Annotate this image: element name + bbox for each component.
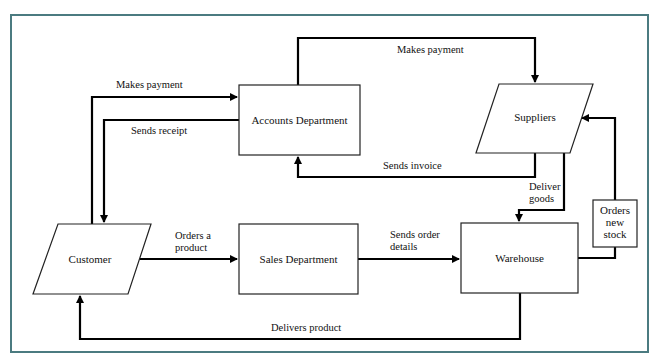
node-label-line: Orders (600, 204, 630, 216)
node-orders-new-stock: Orders new stock (593, 200, 637, 247)
edge-label-sends-order-details-line2: details (390, 241, 417, 252)
node-sales-department: Sales Department (239, 224, 358, 294)
data-flow-diagram: Accounts Department Suppliers Customer S… (0, 0, 659, 360)
edge-label-sends-order-details-line1: Sends order (390, 229, 440, 240)
edge-label-deliver-goods-line2: goods (529, 193, 554, 204)
node-label: Customer (69, 253, 112, 265)
edge-label-deliver-goods-line1: Deliver (529, 181, 561, 192)
edge-label-orders-product-line1: Orders a (175, 230, 211, 241)
edge-label-makes-payment-customer: Makes payment (116, 79, 183, 90)
node-label: Accounts Department (251, 114, 347, 126)
node-warehouse: Warehouse (461, 223, 578, 293)
node-accounts-department: Accounts Department (239, 85, 360, 155)
node-label-line: new (606, 216, 624, 228)
node-label: Suppliers (514, 111, 556, 123)
node-label-line: stock (603, 228, 627, 240)
node-label: Sales Department (260, 253, 338, 265)
edge-label-makes-payment-suppliers: Makes payment (397, 44, 464, 55)
edge-label-sends-invoice: Sends invoice (383, 160, 442, 171)
edge-label-orders-product-line2: product (175, 242, 207, 253)
node-label: Warehouse (495, 252, 544, 264)
edge-label-sends-receipt: Sends receipt (131, 125, 187, 136)
edge-label-delivers-product: Delivers product (271, 322, 341, 333)
